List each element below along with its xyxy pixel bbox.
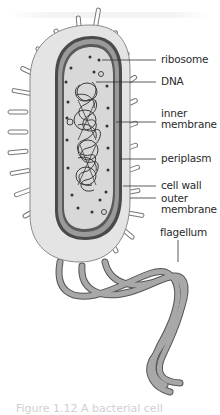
label-inner-membrane: inner membrane	[161, 108, 217, 130]
label-periplasm: periplasm	[161, 153, 211, 164]
label-flagellum: flagellum	[160, 227, 207, 238]
label-ribosome: ribosome	[161, 54, 208, 65]
label-dna: DNA	[161, 76, 184, 87]
figure-caption: Figure 1.12 A bacterial cell	[16, 402, 163, 415]
label-cell-wall: cell wall	[161, 180, 201, 191]
label-outer-membrane: outer membrane	[161, 193, 217, 215]
flagella	[59, 262, 185, 392]
